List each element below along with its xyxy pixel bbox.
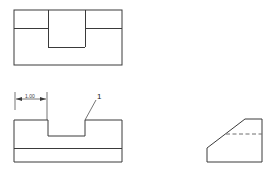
- right-side-view-profile: [207, 119, 262, 162]
- dimension-arrow-right-icon: [40, 97, 46, 101]
- dimension-value-label: 1.00: [25, 93, 35, 99]
- engineering-drawing-canvas: 1.00 1: [0, 0, 273, 177]
- callout-leader-line: [85, 100, 96, 120]
- front-view: [14, 120, 122, 162]
- top-view-outline: [14, 10, 122, 65]
- top-view: [14, 10, 122, 65]
- width-dimension: 1.00: [15, 92, 47, 120]
- right-side-view: [207, 119, 262, 162]
- callout-label-1: 1: [97, 92, 102, 101]
- feature-callout-1: 1: [85, 92, 102, 120]
- dimension-arrow-left-icon: [16, 97, 22, 101]
- front-view-profile: [14, 120, 122, 162]
